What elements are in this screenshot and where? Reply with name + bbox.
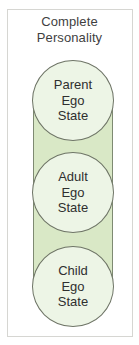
parent-ego-state-circle: Parent Ego State: [32, 60, 114, 141]
child-label-line-2: Ego: [61, 279, 84, 295]
child-ego-state-circle: Child Ego State: [32, 246, 114, 327]
diagram-title: Complete Personality: [0, 14, 139, 46]
parent-label-line-3: State: [58, 108, 88, 124]
title-line-2: Personality: [0, 30, 139, 46]
adult-label-line-3: State: [58, 200, 88, 216]
parent-label-line-1: Parent: [54, 77, 92, 93]
adult-label-line-1: Adult: [58, 169, 88, 185]
parent-label-line-2: Ego: [61, 93, 84, 109]
adult-label-line-2: Ego: [61, 185, 84, 201]
child-label-line-3: State: [58, 294, 88, 310]
child-label-line-1: Child: [58, 263, 88, 279]
title-line-1: Complete: [0, 14, 139, 30]
adult-ego-state-circle: Adult Ego State: [32, 152, 114, 233]
